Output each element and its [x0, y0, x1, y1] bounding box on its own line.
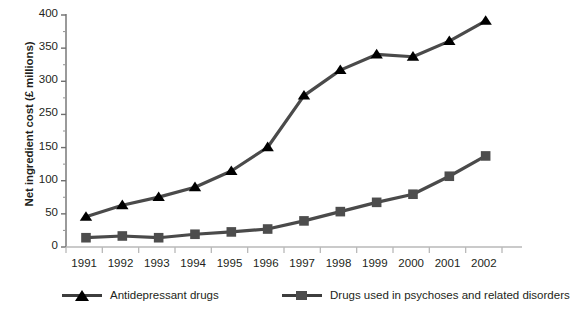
data-point-marker: [408, 189, 418, 199]
data-point-marker: [81, 233, 91, 243]
data-point-marker: [299, 216, 309, 226]
legend-label: Drugs used in psychoses and related diso…: [330, 289, 570, 301]
data-point-marker: [336, 207, 346, 217]
data-point-marker: [479, 15, 491, 25]
y-tick-label: 100: [14, 173, 58, 185]
data-point-marker: [227, 227, 237, 237]
data-point-marker: [118, 231, 128, 241]
data-point-marker: [154, 233, 164, 243]
chart-legend: Antidepressant drugsDrugs used in psycho…: [0, 286, 560, 306]
x-tick-label: 2002: [459, 257, 509, 269]
data-point-marker: [263, 224, 273, 234]
series-line: [86, 156, 486, 238]
y-axis-ticks: [61, 15, 66, 247]
data-point-marker: [481, 151, 491, 161]
legend-item[interactable]: Antidepressant drugs: [62, 286, 219, 304]
series-lines: [86, 21, 486, 238]
y-tick-label: 350: [14, 40, 58, 52]
y-tick-label: 50: [14, 206, 58, 218]
data-point-marker: [372, 198, 382, 208]
y-tick-label: 400: [14, 7, 58, 19]
y-tick-label: 150: [14, 140, 58, 152]
square-marker-icon: [282, 288, 322, 302]
y-tick-label: 300: [14, 73, 58, 85]
legend-item[interactable]: Drugs used in psychoses and related diso…: [282, 286, 570, 304]
triangle-marker-icon: [62, 288, 102, 302]
data-point-marker: [445, 171, 455, 181]
y-tick-label: 250: [14, 106, 58, 118]
legend-label: Antidepressant drugs: [110, 289, 219, 301]
axis-lines: [66, 14, 522, 247]
data-point-marker: [190, 229, 200, 239]
y-tick-label: 0: [14, 239, 58, 251]
x-axis-ticks: [66, 247, 502, 253]
